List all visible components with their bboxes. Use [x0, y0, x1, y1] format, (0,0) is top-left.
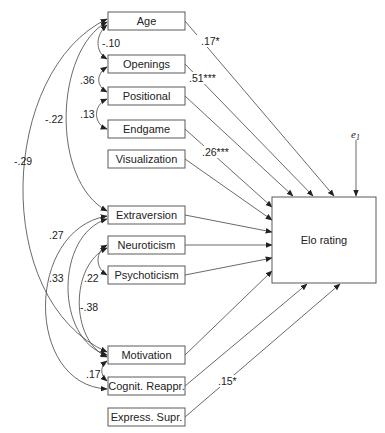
coef-express-elo: .15* — [218, 375, 237, 387]
corr-label-extraversion-cognit: .27 — [49, 229, 64, 241]
box-positional: Positional — [108, 87, 185, 105]
corr-label-openings-positional: .36 — [80, 74, 95, 86]
box-extraversion: Extraversion — [108, 206, 185, 224]
box-label: Cognit. Reappr. — [108, 380, 184, 392]
coef-endgame-elo: .26*** — [202, 146, 229, 158]
path-psychoticism-elo — [185, 258, 272, 275]
corr-label-age-extraversion: -.22 — [45, 113, 63, 125]
corr-motivation-cognit — [102, 361, 107, 381]
path-cognit-elo — [185, 284, 307, 386]
corr-label-motivation-cognit: .17 — [86, 368, 101, 380]
corr-label-neuroticism-psychoticism: .22 — [84, 272, 99, 284]
path-age-elo — [185, 21, 334, 196]
box-elo-rating: Elo rating — [272, 197, 376, 283]
box-psychoticism: Psychoticism — [108, 266, 185, 284]
corr-openings-positional — [99, 67, 107, 92]
box-label: Neuroticism — [117, 239, 175, 251]
box-visualization: Visualization — [108, 150, 185, 168]
box-endgame: Endgame — [108, 120, 185, 138]
box-openings: Openings — [108, 55, 185, 73]
box-label: Visualization — [116, 153, 178, 165]
corr-label-positional-endgame: .13 — [80, 108, 95, 120]
path-motivation-elo — [185, 271, 272, 355]
box-label: Age — [137, 15, 157, 27]
corr-neuroticism-psychoticism — [98, 245, 107, 275]
corr-label-neuroticism-motivation: -.38 — [80, 301, 98, 313]
corr-extraversion-motivation — [68, 219, 107, 355]
error-term-label: e1 — [351, 128, 360, 142]
path-extraversion-elo — [185, 215, 272, 232]
box-label: Motivation — [121, 349, 171, 361]
corr-positional-endgame — [97, 99, 108, 129]
box-express-supr: Express. Supr. — [108, 408, 185, 426]
corr-label-age-openings: -.10 — [102, 37, 120, 49]
coef-age-elo: .17* — [201, 35, 220, 47]
box-label: Psychoticism — [114, 269, 178, 281]
box-motivation: Motivation — [108, 346, 185, 364]
box-label: Extraversion — [116, 209, 177, 221]
box-age: Age — [108, 12, 185, 30]
box-cognit-reappr: Cognit. Reappr. — [108, 377, 185, 395]
box-label: Express. Supr. — [111, 411, 183, 423]
corr-label-age-motivation: -.29 — [14, 155, 32, 167]
box-label: Endgame — [123, 123, 170, 135]
coef-openings-elo: .51*** — [189, 72, 216, 84]
path-diagram: Age Openings Positional Endgame Visualiz… — [0, 0, 385, 433]
path-express-elo — [185, 284, 340, 417]
box-label: Openings — [123, 58, 171, 70]
corr-label-extraversion-motivation: .33 — [49, 272, 64, 284]
box-label: Positional — [123, 90, 171, 102]
box-neuroticism: Neuroticism — [108, 236, 185, 254]
outcome-label: Elo rating — [301, 234, 347, 246]
